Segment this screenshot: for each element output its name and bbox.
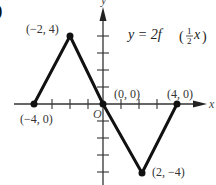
- panel-label: ): [0, 2, 2, 20]
- point-0-0: [100, 101, 107, 108]
- svg-text:y = 2f: y = 2f: [126, 27, 164, 42]
- label-4-0: (4, 0): [167, 87, 193, 101]
- eq-prefix: y = 2: [126, 27, 158, 42]
- label-2-neg4: (2, −4): [152, 165, 185, 179]
- x-axis-arrow-icon: [193, 101, 207, 108]
- label-neg4-0: (−4, 0): [20, 112, 53, 126]
- eq-frac-den: 2: [187, 36, 192, 46]
- point-2-neg4: [139, 170, 146, 177]
- origin-label: O: [93, 107, 102, 121]
- equation-label: y = 2f ( 1 2 x ): [126, 26, 207, 46]
- eq-frac-num: 1: [187, 26, 192, 36]
- label-0-0: (0, 0): [114, 87, 140, 101]
- point-neg2-4: [67, 33, 74, 40]
- point-4-0: [174, 101, 181, 108]
- eq-open-paren: (: [179, 29, 184, 45]
- y-axis-arrow-icon: [100, 7, 107, 21]
- y-axis-label: y: [100, 0, 107, 7]
- function-graph: ) x y O: [0, 0, 216, 185]
- eq-var: x: [193, 27, 201, 42]
- point-neg4-0: [31, 101, 38, 108]
- eq-close-paren: ): [202, 29, 207, 45]
- label-neg2-4: (−2, 4): [26, 22, 59, 36]
- eq-func: f: [158, 27, 164, 42]
- x-axis-label: x: [208, 97, 215, 111]
